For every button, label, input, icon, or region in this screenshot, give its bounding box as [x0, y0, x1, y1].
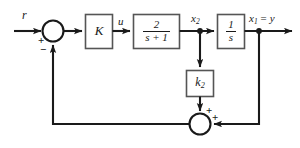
- input-summer-minus-sign: −: [40, 44, 46, 55]
- integrator-denominator: s: [226, 31, 236, 44]
- block-diagram: r + − K u 2 s + 1 x2 1 s x1= y k2 + +: [0, 0, 300, 148]
- label-output-equals-y: = y: [260, 12, 275, 24]
- plant-numerator: 2: [143, 19, 170, 31]
- label-control-u: u: [118, 16, 124, 27]
- label-output-x1-equals-y: x1= y: [249, 13, 275, 26]
- label-state-x2-subscript: 2: [196, 17, 200, 26]
- label-output-subscript: 1: [254, 17, 258, 26]
- gain-k2-subscript: 2: [201, 81, 205, 90]
- label-reference-r: r: [22, 9, 27, 21]
- plant-denominator: s + 1: [143, 31, 170, 44]
- wire-feedback-to-input-summer: [53, 45, 190, 124]
- integrator-numerator: 1: [226, 19, 236, 31]
- block-plant-label: 2 s + 1: [134, 19, 180, 43]
- feedback-summer-plus-right: +: [212, 112, 218, 123]
- block-gain-k-label: K: [86, 24, 113, 38]
- label-state-x2: x2: [191, 13, 200, 26]
- block-gain-k2-label: k2: [187, 76, 214, 91]
- block-integrator-label: 1 s: [218, 19, 245, 43]
- feedback-summer-circle: [190, 114, 211, 135]
- input-summer-circle: [43, 21, 64, 42]
